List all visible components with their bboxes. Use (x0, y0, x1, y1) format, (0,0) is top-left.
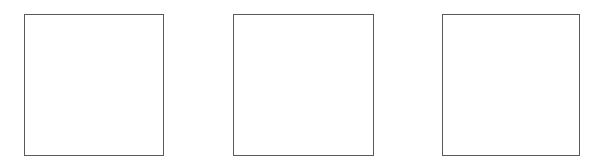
empty-box-2 (233, 14, 374, 156)
empty-box-1 (24, 14, 164, 156)
empty-box-3 (442, 14, 580, 156)
